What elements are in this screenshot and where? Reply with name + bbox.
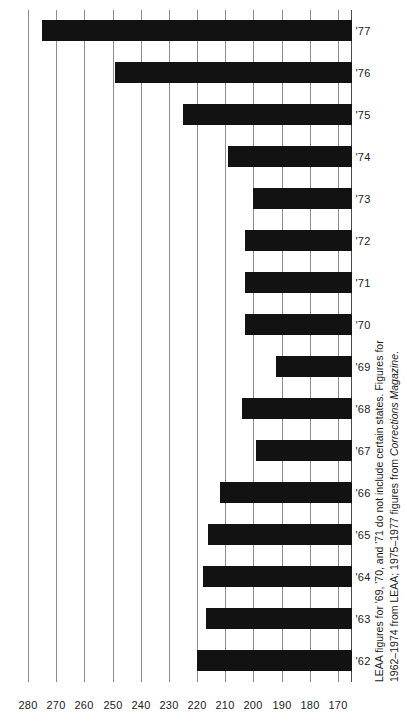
plot-area bbox=[14, 10, 352, 682]
category-axis-tick-label: '76 bbox=[350, 66, 376, 80]
bar bbox=[208, 525, 352, 546]
category-axis-tick-label: '63 bbox=[350, 612, 376, 626]
bar bbox=[183, 105, 352, 126]
gridline bbox=[84, 10, 85, 682]
category-axis-tick-label: '70 bbox=[350, 318, 376, 332]
category-axis-tick-label: '72 bbox=[350, 234, 376, 248]
category-axis-tick-label: '68 bbox=[350, 402, 376, 416]
category-axis-tick-label: '71 bbox=[350, 276, 376, 290]
bar bbox=[197, 651, 352, 672]
footnote-line-2-suffix: . bbox=[388, 351, 400, 354]
bar bbox=[206, 609, 352, 630]
footnote-source-name: Corrections Magazine bbox=[388, 354, 400, 456]
value-axis-tick-label: 170 bbox=[321, 698, 355, 712]
category-axis-tick-label: '64 bbox=[350, 570, 376, 584]
rotated-figure-page: LEAA figures for '69, '70, and '71 do no… bbox=[0, 0, 407, 722]
category-axis-tick-label: '65 bbox=[350, 528, 376, 542]
gridline bbox=[28, 10, 29, 682]
category-axis-tick-label: '73 bbox=[350, 192, 376, 206]
bar-chart: LEAA figures for '69, '70, and '71 do no… bbox=[0, 0, 407, 722]
gridline bbox=[141, 10, 142, 682]
category-axis-tick-label: '62 bbox=[350, 654, 376, 668]
bar bbox=[242, 399, 352, 420]
bar bbox=[220, 483, 352, 504]
category-axis-tick-label: '67 bbox=[350, 444, 376, 458]
footnote-line-2: 1962–1974 from LEAA; 1975–1977 figures f… bbox=[387, 22, 402, 682]
bar bbox=[253, 189, 352, 210]
bar bbox=[256, 441, 352, 462]
gridline bbox=[113, 10, 114, 682]
category-axis-tick-label: '77 bbox=[350, 24, 376, 38]
bar bbox=[245, 315, 352, 336]
footnote-line-2-prefix: 1962–1974 from LEAA; 1975–1977 figures f… bbox=[388, 456, 400, 682]
category-axis-tick-label: '66 bbox=[350, 486, 376, 500]
bar bbox=[115, 63, 352, 84]
bar bbox=[276, 357, 352, 378]
category-axis-tick-label: '74 bbox=[350, 150, 376, 164]
gridline bbox=[56, 10, 57, 682]
gridline bbox=[169, 10, 170, 682]
bar bbox=[228, 147, 352, 168]
bar bbox=[245, 231, 352, 252]
bar bbox=[42, 21, 352, 42]
category-axis-tick-label: '75 bbox=[350, 108, 376, 122]
bar bbox=[203, 567, 352, 588]
category-axis-tick-label: '69 bbox=[350, 360, 376, 374]
bar bbox=[245, 273, 352, 294]
chart-footnote: LEAA figures for '69, '70, and '71 do no… bbox=[372, 22, 402, 682]
